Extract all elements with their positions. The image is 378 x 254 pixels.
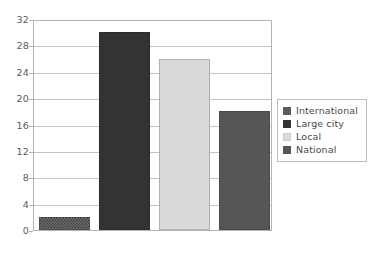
legend-item-label: Local bbox=[296, 131, 321, 142]
legend-swatch-icon bbox=[283, 120, 291, 128]
bars-group bbox=[34, 21, 271, 230]
y-axis-tick-label: 32 bbox=[0, 15, 29, 25]
y-axis-tick-label: 24 bbox=[0, 68, 29, 78]
y-axis-tick-label: 20 bbox=[0, 94, 29, 104]
y-axis-tick-mark bbox=[29, 231, 33, 232]
legend-swatch-icon bbox=[283, 133, 291, 141]
legend: InternationalLarge cityLocalNational bbox=[277, 99, 367, 162]
y-axis-tick-label: 0 bbox=[0, 226, 29, 236]
legend-item: International bbox=[283, 104, 361, 117]
bar-national bbox=[219, 111, 270, 230]
y-axis: 048121620242832 bbox=[0, 20, 29, 231]
y-axis-tick-label: 8 bbox=[0, 173, 29, 183]
y-axis-tick-label: 16 bbox=[0, 121, 29, 131]
legend-item: Large city bbox=[283, 117, 361, 130]
legend-swatch-icon bbox=[283, 107, 291, 115]
legend-item: Local bbox=[283, 130, 361, 143]
bar-large-city bbox=[99, 32, 150, 230]
y-axis-tick-label: 4 bbox=[0, 200, 29, 210]
legend-item-label: Large city bbox=[296, 118, 344, 129]
bar-international bbox=[39, 217, 90, 230]
legend-item-label: International bbox=[296, 105, 358, 116]
bar-local bbox=[159, 59, 210, 230]
y-axis-tick-label: 28 bbox=[0, 41, 29, 51]
bar-chart: 048121620242832 InternationalLarge cityL… bbox=[0, 0, 378, 254]
legend-item-label: National bbox=[296, 144, 336, 155]
legend-item: National bbox=[283, 143, 361, 156]
y-axis-tick-label: 12 bbox=[0, 147, 29, 157]
legend-swatch-icon bbox=[283, 146, 291, 154]
plot-area bbox=[33, 20, 272, 231]
